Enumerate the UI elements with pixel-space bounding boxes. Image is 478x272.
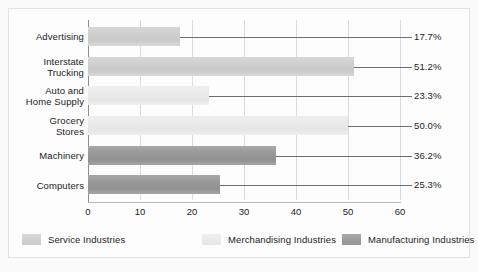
legend-item[interactable]: Service Industries [22, 231, 125, 247]
bar-row [88, 52, 400, 82]
category-label-line: Machinery [2, 150, 84, 161]
category-label-line: Trucking [2, 67, 84, 78]
bar [88, 27, 180, 46]
leader-line [348, 126, 412, 127]
chart-figure: AdvertisingInterstateTruckingAuto andHom… [0, 0, 478, 272]
x-tick-label: 40 [281, 206, 311, 217]
value-label: 36.2% [414, 150, 441, 161]
bar [88, 57, 354, 76]
x-tick-label: 10 [125, 206, 155, 217]
category-label: Auto andHome Supply [2, 85, 84, 107]
category-label-line: Advertising [2, 31, 84, 42]
plot-area [88, 22, 400, 200]
leader-line [180, 37, 412, 38]
value-label: 17.7% [414, 31, 441, 42]
legend-label: Service Industries [48, 234, 125, 245]
category-label: Computers [2, 180, 84, 191]
leader-line [209, 96, 412, 97]
x-axis-line [88, 202, 401, 203]
leader-line [220, 185, 412, 186]
legend-item[interactable]: Manufacturing Industries [342, 231, 474, 247]
value-label: 25.3% [414, 179, 441, 190]
category-label: GroceryStores [2, 115, 84, 137]
leader-line [276, 156, 412, 157]
category-label-line: Stores [2, 126, 84, 137]
category-label-line: Home Supply [2, 96, 84, 107]
chart-legend: Service IndustriesMerchandising Industri… [22, 231, 452, 249]
category-label: Advertising [2, 31, 84, 42]
category-label-line: Grocery [2, 115, 84, 126]
legend-swatch-icon [342, 234, 361, 245]
bar [88, 146, 276, 165]
bar [88, 116, 348, 135]
x-tick-label: 50 [333, 206, 363, 217]
category-label-line: Computers [2, 180, 84, 191]
legend-label: Merchandising Industries [228, 234, 336, 245]
x-tick-label: 0 [73, 206, 103, 217]
value-label: 23.3% [414, 90, 441, 101]
gridline-60 [400, 20, 401, 200]
legend-swatch-icon [22, 234, 41, 245]
bar [88, 86, 209, 105]
category-label-line: Auto and [2, 85, 84, 96]
value-label: 51.2% [414, 61, 441, 72]
value-label: 50.0% [414, 120, 441, 131]
x-tick-label: 20 [177, 206, 207, 217]
category-axis: AdvertisingInterstateTruckingAuto andHom… [0, 22, 84, 200]
x-tick-label: 30 [229, 206, 259, 217]
category-label-line: Interstate [2, 56, 84, 67]
legend-item[interactable]: Merchandising Industries [202, 231, 336, 247]
bar [88, 175, 220, 194]
x-tick-label: 60 [385, 206, 415, 217]
leader-line [354, 67, 412, 68]
legend-label: Manufacturing Industries [368, 234, 474, 245]
legend-swatch-icon [202, 234, 221, 245]
category-label: Machinery [2, 150, 84, 161]
category-label: InterstateTrucking [2, 56, 84, 78]
